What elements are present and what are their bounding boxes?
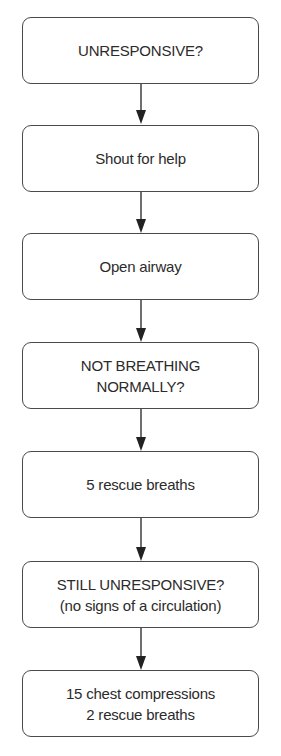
arrow-down-icon [135,628,147,670]
node-text-line-2: (no signs of a circulation) [60,595,221,616]
node-text: 5 rescue breaths [86,474,195,495]
node-text-line-1: 15 chest compressions [66,683,215,704]
node-still-unresponsive: STILL UNRESPONSIVE? (no signs of a circu… [22,561,259,628]
node-chest-compressions: 15 chest compressions 2 rescue breaths [22,670,259,737]
node-text: UNRESPONSIVE? [78,40,203,61]
node-not-breathing-normally: NOT BREATHING NORMALLY? [22,342,259,409]
node-open-airway: Open airway [22,233,259,300]
node-text-line-1: STILL UNRESPONSIVE? [57,574,224,595]
arrow-down-icon [135,300,147,342]
node-text-line-2: 2 rescue breaths [86,704,195,725]
node-text: Shout for help [95,148,186,169]
node-text-line-1: NOT BREATHING [81,355,200,376]
node-5-rescue-breaths: 5 rescue breaths [22,451,259,518]
node-unresponsive: UNRESPONSIVE? [22,17,259,84]
arrow-down-icon [135,192,147,233]
arrow-down-icon [135,518,147,561]
node-text: Open airway [99,256,181,277]
node-shout-for-help: Shout for help [22,125,259,192]
arrow-down-icon [135,84,147,124]
node-text-line-2: NORMALLY? [97,376,185,397]
arrow-down-icon [135,409,147,451]
